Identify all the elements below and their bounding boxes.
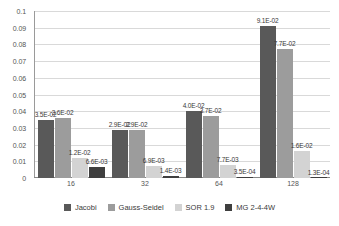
x-tick-label: 64 [182, 180, 256, 187]
x-tick-label: 32 [108, 180, 182, 187]
legend-label: Jacobi [75, 203, 97, 212]
y-tick-label: 0.01 [13, 158, 26, 165]
bar-chart: 00.010.020.030.040.050.060.070.080.090.1… [0, 0, 339, 226]
bar-slot: 1.3E-04 [311, 11, 327, 178]
legend-label: Gauss-Seidel [119, 203, 164, 212]
x-tick-label: 128 [256, 180, 330, 187]
bar-value-label: 6.9E-03 [143, 157, 165, 165]
bar[interactable] [89, 167, 105, 178]
y-tick-label: 0.07 [13, 58, 26, 65]
y-tick-label: 0.05 [13, 91, 26, 98]
y-tick-label: 0.03 [13, 124, 26, 131]
y-tick-label: 0.08 [13, 41, 26, 48]
bar-value-label: 6.6E-03 [86, 158, 108, 166]
bar-slot: 1.4E-03 [163, 11, 179, 178]
bar[interactable] [55, 118, 71, 178]
legend-swatch-icon [64, 204, 71, 211]
legend-label: MG 2-4-4W [236, 203, 275, 212]
bar-group: 3.5E-023.6E-021.2E-026.6E-03 [34, 11, 108, 178]
legend-item[interactable]: SOR 1.9 [175, 203, 215, 212]
bar-value-label: 1.3E-04 [308, 169, 330, 177]
bar-slot: 2.9E-02 [112, 11, 128, 178]
bar-value-label: 2.9E-02 [126, 121, 148, 129]
bar-slot: 7.7E-03 [220, 11, 236, 178]
bar-slot: 1.6E-02 [294, 11, 310, 178]
bar-slot: 3.5E-02 [38, 11, 54, 178]
bar-slot: 1.2E-02 [72, 11, 88, 178]
bar[interactable] [38, 120, 54, 178]
bar[interactable] [129, 130, 145, 178]
bar-slot: 4.0E-02 [186, 11, 202, 178]
bar-slot: 6.6E-03 [89, 11, 105, 178]
y-tick-label: 0 [22, 175, 26, 182]
legend-swatch-icon [175, 204, 182, 211]
bar[interactable] [277, 49, 293, 178]
bar[interactable] [203, 116, 219, 178]
bar-group: 4.0E-023.7E-027.7E-033.5E-04 [182, 11, 256, 178]
bar[interactable] [237, 177, 253, 178]
bar-slot: 7.7E-02 [277, 11, 293, 178]
y-tick-label: 0.04 [13, 108, 26, 115]
bar[interactable] [163, 176, 179, 178]
chart-legend: JacobiGauss-SeidelSOR 1.9MG 2-4-4W [0, 203, 339, 212]
bar[interactable] [311, 177, 327, 178]
bar-slot: 9.1E-02 [260, 11, 276, 178]
bar-slot: 3.5E-04 [237, 11, 253, 178]
y-axis-ticks: 00.010.020.030.040.050.060.070.080.090.1 [0, 11, 30, 178]
x-tick-label: 16 [34, 180, 108, 187]
legend-item[interactable]: MG 2-4-4W [225, 203, 275, 212]
bar-value-label: 1.4E-03 [160, 167, 182, 175]
bar-slot: 2.9E-02 [129, 11, 145, 178]
bar-value-label: 3.6E-02 [52, 109, 74, 117]
legend-item[interactable]: Jacobi [64, 203, 97, 212]
bar-group: 2.9E-022.9E-026.9E-031.4E-03 [108, 11, 182, 178]
bar-group: 9.1E-027.7E-021.6E-021.3E-04 [256, 11, 330, 178]
bar-slot: 3.7E-02 [203, 11, 219, 178]
bar-value-label: 3.5E-04 [234, 168, 256, 176]
legend-swatch-icon [225, 204, 232, 211]
x-axis-ticks: 163264128 [34, 180, 330, 187]
bar-value-label: 7.7E-03 [217, 156, 239, 164]
y-tick-label: 0.09 [13, 24, 26, 31]
bar[interactable] [260, 26, 276, 178]
y-tick-label: 0.06 [13, 74, 26, 81]
bar[interactable] [186, 111, 202, 178]
legend-label: SOR 1.9 [186, 203, 215, 212]
bar-value-label: 7.7E-02 [274, 40, 296, 48]
legend-item[interactable]: Gauss-Seidel [108, 203, 164, 212]
bar-value-label: 1.6E-02 [291, 142, 313, 150]
y-tick-label: 0.1 [17, 8, 26, 15]
bar-value-label: 3.7E-02 [200, 107, 222, 115]
y-tick-label: 0.02 [13, 141, 26, 148]
bar-groups: 3.5E-023.6E-021.2E-026.6E-032.9E-022.9E-… [34, 11, 330, 178]
legend-swatch-icon [108, 204, 115, 211]
plot-area: 3.5E-023.6E-021.2E-026.6E-032.9E-022.9E-… [34, 11, 330, 178]
bar-value-label: 9.1E-02 [257, 17, 279, 25]
bar-slot: 6.9E-03 [146, 11, 162, 178]
bar-value-label: 1.2E-02 [69, 149, 91, 157]
bar[interactable] [112, 130, 128, 178]
